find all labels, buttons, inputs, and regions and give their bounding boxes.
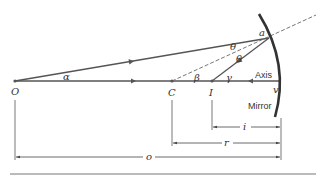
axis-arrow-icon xyxy=(131,79,136,84)
label-o: O xyxy=(11,86,19,97)
label-i: I xyxy=(208,87,214,98)
label-dimension-r: r xyxy=(224,137,230,148)
label-c: C xyxy=(168,87,176,98)
label-theta-2: θ xyxy=(236,53,242,64)
label-alpha: α xyxy=(63,71,70,82)
point-o xyxy=(13,79,16,82)
label-theta-1: θ xyxy=(230,41,236,52)
mirror-diagram: O C I a v α β γ θ θ Axis Mirror i r o xyxy=(0,0,326,177)
label-gamma: γ xyxy=(226,72,232,83)
label-beta: β xyxy=(193,72,200,83)
label-v: v xyxy=(273,84,279,95)
incident-ray-arrow-icon xyxy=(129,59,135,65)
axis-return-arrow-icon xyxy=(248,79,253,84)
point-i xyxy=(210,79,213,82)
label-dimension-o: o xyxy=(146,151,152,162)
label-axis: Axis xyxy=(255,70,273,80)
label-mirror: Mirror xyxy=(248,101,272,111)
label-dimension-i: i xyxy=(243,121,246,132)
point-c xyxy=(170,79,173,82)
label-a: a xyxy=(259,27,265,38)
